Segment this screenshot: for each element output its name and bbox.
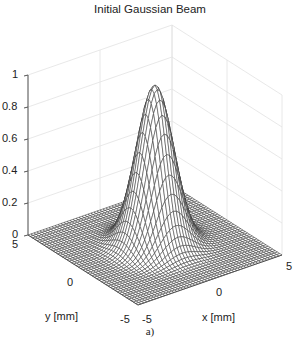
z-tick-0.8: 0.8 [2,100,17,112]
z-tick-1: 1 [12,68,18,80]
figure: Initial Gaussian Beam 1 0.8 0.6 0.4 0.2 … [0,0,300,350]
y-axis-label: y [mm] [45,310,78,322]
z-tick-0.2: 0.2 [2,196,17,208]
y-tick-5: 5 [12,238,18,250]
x-tick-0: 0 [216,286,222,298]
y-tick-0: 0 [67,276,73,288]
z-tick-0.6: 0.6 [2,132,17,144]
y-tick--5: -5 [120,313,130,325]
surface-plot [0,0,300,350]
figure-caption: a) [0,325,300,337]
x-tick--5: -5 [142,313,152,325]
x-tick-5: 5 [286,260,292,272]
x-axis-label: x [mm] [202,311,235,323]
z-tick-0.4: 0.4 [2,164,17,176]
chart-title: Initial Gaussian Beam [0,3,300,15]
